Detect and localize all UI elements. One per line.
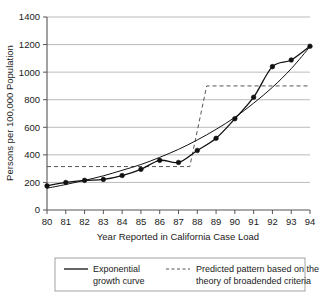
x-tick-label: 91 bbox=[248, 216, 259, 227]
y-tick-label: 0 bbox=[35, 204, 40, 215]
data-point-marker bbox=[176, 160, 181, 165]
data-point-marker bbox=[233, 116, 238, 121]
x-tick-label: 90 bbox=[230, 216, 241, 227]
x-tick-label: 85 bbox=[136, 216, 147, 227]
data-point-marker bbox=[195, 148, 200, 153]
data-point-marker bbox=[139, 167, 144, 172]
x-tick-label: 93 bbox=[286, 216, 297, 227]
y-axis-ticks: 0200400600800100012001400 bbox=[19, 11, 47, 215]
x-axis-title: Year Reported in California Case Load bbox=[97, 231, 259, 242]
gridlines bbox=[47, 17, 310, 182]
data-point-marker bbox=[101, 177, 106, 182]
y-tick-label: 600 bbox=[24, 122, 40, 133]
data-point-marker bbox=[308, 44, 313, 49]
data-point-marker bbox=[63, 180, 68, 185]
x-tick-label: 94 bbox=[305, 216, 316, 227]
x-tick-label: 89 bbox=[211, 216, 222, 227]
x-tick-label: 87 bbox=[173, 216, 184, 227]
x-tick-label: 80 bbox=[42, 216, 53, 227]
legend-label-predicted-line2: theory of broadended criteria bbox=[196, 276, 311, 286]
data-point-marker bbox=[270, 64, 275, 69]
data-point-marker bbox=[251, 95, 256, 100]
y-tick-label: 800 bbox=[24, 94, 40, 105]
chart-figure: 0200400600800100012001400 80818283848586… bbox=[0, 0, 322, 298]
legend-label-exponential-line1: Exponential bbox=[93, 264, 140, 274]
y-tick-label: 400 bbox=[24, 149, 40, 160]
x-tick-label: 88 bbox=[192, 216, 203, 227]
data-point-marker bbox=[289, 58, 294, 63]
y-tick-label: 1400 bbox=[19, 11, 40, 22]
x-axis-ticks: 808182838485868788899091929394 bbox=[42, 210, 316, 227]
data-point-marker bbox=[82, 178, 87, 183]
x-tick-label: 92 bbox=[267, 216, 278, 227]
x-tick-label: 84 bbox=[117, 216, 128, 227]
y-tick-label: 1200 bbox=[19, 39, 40, 50]
x-tick-label: 81 bbox=[60, 216, 71, 227]
data-point-marker bbox=[120, 173, 125, 178]
y-axis-title: Persons per 100,000 Population bbox=[4, 45, 15, 181]
data-point-marker bbox=[157, 158, 162, 163]
legend: Exponential growth curve Predicted patte… bbox=[55, 258, 319, 291]
x-tick-label: 86 bbox=[154, 216, 165, 227]
line-chart: 0200400600800100012001400 80818283848586… bbox=[0, 0, 322, 298]
x-tick-label: 83 bbox=[98, 216, 109, 227]
x-tick-label: 82 bbox=[79, 216, 90, 227]
y-tick-label: 200 bbox=[24, 177, 40, 188]
legend-border bbox=[55, 258, 305, 291]
legend-label-exponential-line2: growth curve bbox=[93, 276, 145, 286]
legend-label-predicted-line1: Predicted pattern based on the bbox=[196, 264, 319, 274]
data-point-marker bbox=[214, 136, 219, 141]
y-tick-label: 1000 bbox=[19, 67, 40, 78]
data-point-marker bbox=[45, 184, 50, 189]
